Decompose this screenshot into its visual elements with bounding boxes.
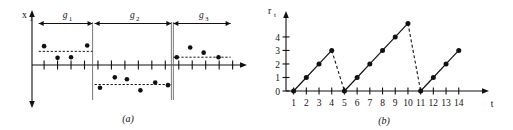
panel-b-x-tick-label: 14 — [454, 98, 464, 108]
panel-b-reset-segment — [332, 50, 345, 91]
panel-b-x-tick-label: 11 — [416, 98, 425, 108]
panel-a-group-sublabel: 2 — [136, 15, 140, 23]
panel-a-data-point — [153, 80, 158, 85]
panel-b-data-point — [329, 48, 334, 53]
panel-b-data-point — [444, 61, 449, 66]
panel-a-data-point — [85, 43, 90, 48]
panel-a-data-point — [138, 88, 143, 93]
panel-a-x-axis-arrow — [240, 62, 247, 68]
panel-b-svg: 012341234567891011121314 r t t (b) — [256, 0, 513, 130]
panel-b-y-tick-label: 3 — [275, 46, 280, 56]
panel-b-x-tick-label: 6 — [355, 98, 360, 108]
panel-a-data-point — [42, 44, 47, 49]
panel-a-data-point — [201, 50, 206, 55]
panel-a-data-point — [55, 56, 60, 61]
panel-b-data-point — [304, 75, 309, 80]
panel-a-data-point — [98, 85, 103, 90]
panel-b-ramp-segment — [294, 50, 332, 91]
panel-b-reset-segment — [408, 23, 421, 91]
panel-b-x-tick-label: 12 — [429, 98, 439, 108]
panel-a-group-label: g — [199, 10, 204, 20]
panel-b-data-point — [431, 75, 436, 80]
panel-a-caption: (a) — [122, 113, 134, 125]
panel-a-group-label: g — [63, 10, 68, 20]
panel-b-x-tick-label: 8 — [380, 98, 385, 108]
panel-b-x-tick-label: 3 — [317, 98, 322, 108]
panel-b-x-tick-label: 1 — [291, 98, 296, 108]
panel-b-data-point — [380, 48, 385, 53]
panel-b-x-tick-label: 2 — [304, 98, 309, 108]
panel-b-data-point — [418, 89, 423, 94]
panel-b-x-tick-label: 7 — [367, 98, 372, 108]
panel-b-x-axis-arrow — [482, 88, 489, 94]
panel-b-x-tick-label: 5 — [342, 98, 347, 108]
panel-a-group-span-arrow-right — [226, 21, 231, 26]
panel-b-data-point — [456, 48, 461, 53]
panel-b-x-axis-label: t — [491, 99, 494, 109]
panel-a-data-point — [166, 83, 171, 88]
panel-b-x-tick-label: 4 — [329, 98, 334, 108]
panel-a-data-point — [216, 55, 221, 60]
panel-a-group-span-arrow-left — [39, 21, 44, 26]
panel-b-data-point — [355, 75, 360, 80]
panel-a-data-point — [188, 45, 193, 50]
panel-b-y-axis-sublabel: t — [274, 11, 276, 19]
panel-b-ramp-segment — [421, 50, 459, 91]
panel-b-y-tick-label: 2 — [275, 60, 280, 70]
panel-b-line-chart: 012341234567891011121314 r t t (b) — [256, 0, 513, 130]
panel-b-y-tick-label: 4 — [275, 33, 280, 43]
panel-b-data-point — [393, 34, 398, 39]
panel-b-data-point — [291, 89, 296, 94]
panel-a-data-point — [69, 55, 74, 60]
panel-a-group-span-arrow-left — [95, 21, 100, 26]
panel-a-group-span-arrow-left — [173, 21, 178, 26]
figure-container: g1g2g3 x 1 (a) 012341234567891011121314 … — [0, 0, 513, 130]
panel-b-y-tick-label: 0 — [275, 87, 280, 97]
panel-a-group-span-arrow-right — [88, 21, 93, 26]
panel-b-y-axis-arrow — [283, 11, 289, 18]
panel-b-data-point — [405, 21, 410, 26]
panel-b-data-point — [367, 61, 372, 66]
panel-a-data-point — [125, 77, 130, 82]
panel-b-x-tick-label: 10 — [403, 98, 413, 108]
panel-a-group-label: g — [130, 10, 135, 20]
panel-a-scatter: g1g2g3 x 1 (a) — [0, 0, 256, 130]
panel-b-x-tick-label: 9 — [393, 98, 398, 108]
panel-a-group-sublabel: 3 — [205, 15, 209, 23]
panel-b-data-point — [317, 61, 322, 66]
panel-b-data-point — [342, 89, 347, 94]
panel-a-y-axis-down-arrow — [29, 101, 35, 108]
panel-a-data-point — [174, 55, 179, 60]
panel-b-ramp-segment — [344, 23, 408, 91]
panel-a-data-point — [113, 75, 118, 80]
panel-b-x-tick-label: 13 — [441, 98, 451, 108]
panel-a-y-axis-sublabel: 1 — [30, 15, 34, 23]
panel-a-group-sublabel: 1 — [69, 15, 73, 23]
panel-b-y-axis-label: r — [268, 5, 272, 16]
panel-a-y-axis-label: x — [22, 9, 27, 20]
panel-a-group-span-arrow-right — [166, 21, 171, 26]
panel-b-caption: (b) — [378, 115, 390, 127]
panel-a-svg: g1g2g3 x 1 (a) — [0, 0, 256, 130]
panel-b-y-tick-label: 1 — [275, 73, 280, 83]
